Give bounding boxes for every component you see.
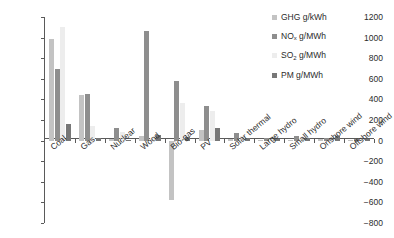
- bar: [96, 138, 101, 141]
- bar: [174, 81, 179, 140]
- legend-label-base: SO: [281, 50, 293, 60]
- bar: [85, 94, 90, 141]
- y-tick-mark: [41, 38, 44, 39]
- legend-swatch-icon: [272, 53, 277, 58]
- y-tick-mark: [41, 141, 44, 142]
- bar: [49, 39, 54, 141]
- legend-label: SO2 g/MWh: [281, 51, 326, 61]
- y-tick-mark: [41, 79, 44, 80]
- legend-label-unit: g/MWh: [297, 31, 326, 41]
- legend-label-base: PM: [281, 70, 294, 80]
- y-tick-mark: [41, 58, 44, 59]
- legend-swatch-icon: [272, 73, 277, 78]
- y-tick-mark: [41, 161, 44, 162]
- legend-label: PM g/MWh: [281, 71, 323, 80]
- legend-label-unit: g/MWh: [294, 70, 323, 80]
- legend-label-unit: g/MWh: [297, 50, 326, 60]
- bar: [60, 27, 65, 140]
- bar-group: [105, 17, 135, 223]
- legend-item: PM g/MWh: [272, 71, 380, 80]
- y-tick-mark: [41, 17, 44, 18]
- y-tick-mark: [41, 120, 44, 121]
- legend-label-subscript: 2: [293, 55, 296, 61]
- y-tick-mark: [41, 223, 44, 224]
- bar-group: [45, 17, 75, 223]
- bar-group: [224, 17, 254, 223]
- legend-swatch-icon: [272, 34, 277, 39]
- chart-legend: GHG g/kWhNOx g/MWhSO2 g/MWhPM g/MWh: [272, 13, 380, 89]
- y-tick-mark: [41, 202, 44, 203]
- bar: [204, 106, 209, 141]
- bar-group: [195, 17, 225, 223]
- bar-group: [165, 17, 195, 223]
- bar: [79, 95, 84, 140]
- legend-item: NOx g/MWh: [272, 32, 380, 42]
- x-tick-mark: [374, 139, 375, 143]
- legend-label-base: NO: [281, 31, 294, 41]
- legend-label-subscript: x: [294, 35, 297, 41]
- bar: [210, 111, 215, 141]
- bar: [215, 128, 220, 140]
- legend-item: GHG g/kWh: [272, 13, 380, 22]
- y-tick-mark: [41, 182, 44, 183]
- bar-group: [75, 17, 105, 223]
- bar-group: [135, 17, 165, 223]
- bar: [144, 31, 149, 140]
- legend-label-base: GHG: [281, 12, 300, 22]
- legend-label-unit: g/kWh: [300, 12, 326, 22]
- legend-swatch-icon: [272, 15, 277, 20]
- bar: [55, 69, 60, 141]
- legend-label: GHG g/kWh: [281, 13, 327, 22]
- y-tick-mark: [41, 99, 44, 100]
- legend-item: SO2 g/MWh: [272, 51, 380, 61]
- legend-label: NOx g/MWh: [281, 32, 326, 42]
